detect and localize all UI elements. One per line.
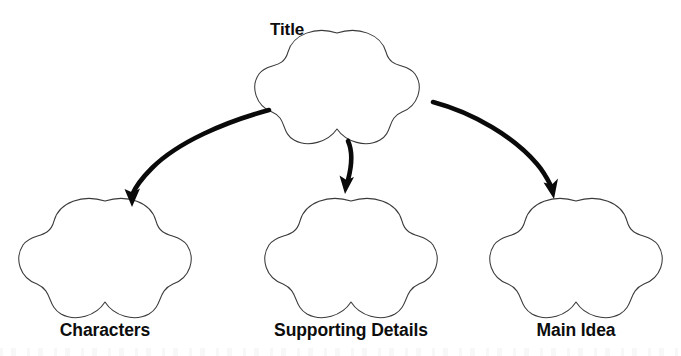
node-label-supporting-details: Supporting Details (261, 322, 441, 340)
node-label-characters: Characters (20, 322, 190, 340)
node-shape-main-idea[interactable] (490, 198, 662, 317)
node-shape-characters[interactable] (19, 198, 191, 317)
connector-arrow-to-characters (125, 110, 270, 207)
connector-arrow-to-supporting-details (340, 141, 355, 194)
node-shape-supporting-details[interactable] (265, 198, 437, 317)
diagram-svg (0, 0, 681, 356)
node-label-main-idea: Main Idea (487, 322, 665, 340)
node-shape-title[interactable] (255, 30, 419, 143)
node-label-title: Title (270, 21, 304, 38)
connector-arrow-to-main-idea (433, 102, 558, 199)
graphic-organizer-canvas: Title Characters Supporting Details Main… (0, 0, 681, 356)
